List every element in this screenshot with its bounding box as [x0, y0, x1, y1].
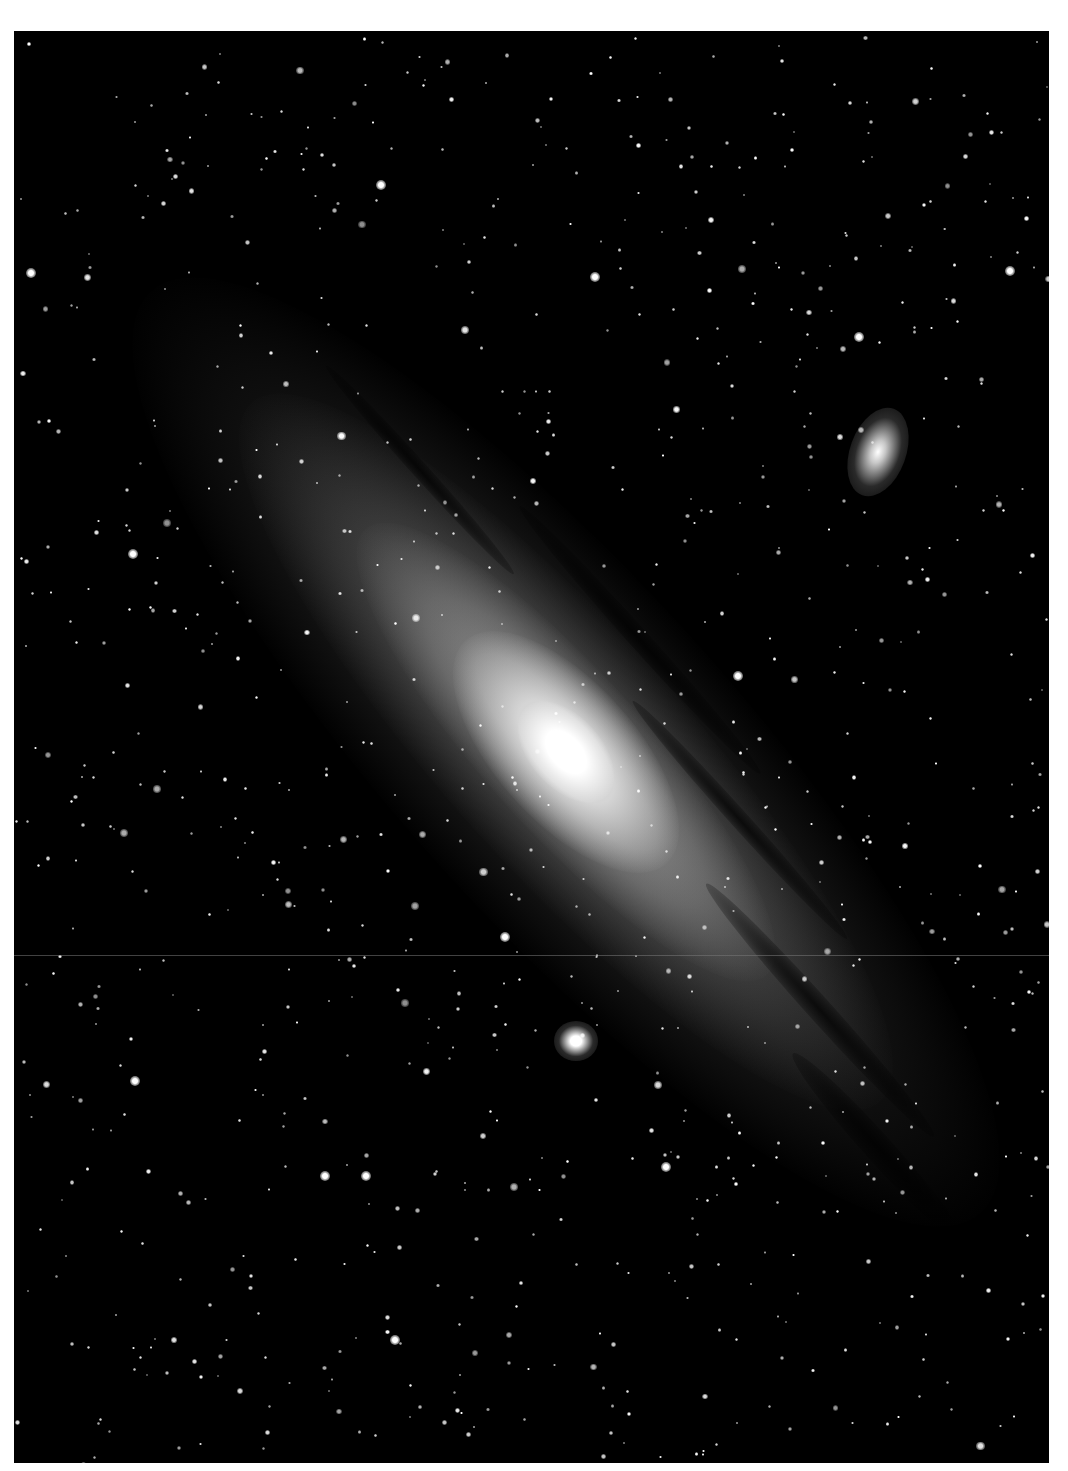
star — [467, 428, 469, 430]
star — [34, 747, 37, 750]
star — [188, 271, 190, 273]
star — [361, 924, 364, 927]
star — [192, 1359, 197, 1364]
star — [921, 921, 924, 924]
star — [185, 627, 187, 629]
star — [454, 513, 457, 516]
star — [683, 539, 687, 543]
star — [727, 1156, 730, 1159]
star — [137, 732, 140, 735]
star — [497, 198, 500, 201]
star — [376, 564, 378, 566]
star — [412, 678, 415, 681]
star — [979, 377, 984, 382]
star — [284, 1165, 287, 1168]
star — [422, 84, 425, 87]
star — [1002, 509, 1005, 512]
star — [732, 910, 734, 912]
star — [139, 968, 141, 970]
star — [358, 221, 366, 229]
star — [609, 56, 612, 59]
star — [519, 1281, 523, 1285]
star — [477, 457, 480, 460]
star — [780, 59, 784, 63]
star — [1016, 251, 1019, 254]
star — [535, 118, 540, 123]
star — [739, 751, 742, 754]
star — [590, 1364, 597, 1371]
star — [20, 371, 25, 376]
star — [464, 1182, 466, 1184]
star — [908, 249, 911, 252]
star — [922, 1358, 924, 1360]
star — [86, 1167, 89, 1170]
star — [372, 121, 375, 124]
star — [990, 256, 992, 258]
star — [802, 976, 807, 981]
star — [759, 341, 761, 343]
star — [836, 1210, 839, 1213]
star — [346, 1054, 349, 1057]
star — [162, 959, 165, 962]
star — [601, 1454, 605, 1458]
bright-star — [26, 268, 36, 278]
star — [754, 156, 757, 159]
star — [956, 957, 960, 961]
dust-lane — [320, 361, 519, 580]
star — [762, 465, 764, 467]
star — [742, 773, 745, 776]
star — [685, 227, 687, 229]
star — [860, 1081, 865, 1086]
star — [690, 498, 692, 500]
star — [109, 825, 112, 828]
star — [1020, 1152, 1023, 1155]
star — [144, 889, 148, 893]
star — [241, 386, 244, 389]
star — [507, 1361, 511, 1365]
star — [441, 614, 444, 617]
star — [822, 1210, 826, 1214]
star — [1003, 930, 1008, 935]
star — [327, 323, 330, 326]
star — [328, 1000, 330, 1002]
star — [736, 1422, 739, 1425]
star — [506, 1332, 512, 1338]
star — [55, 1275, 58, 1278]
star — [154, 1338, 156, 1340]
star — [177, 1446, 181, 1450]
star — [461, 326, 469, 334]
star — [982, 509, 985, 512]
star — [627, 1412, 631, 1416]
star — [75, 641, 78, 644]
star — [283, 381, 288, 386]
star — [872, 1177, 876, 1181]
star — [986, 1288, 991, 1293]
star — [913, 326, 916, 329]
star — [665, 850, 668, 853]
star — [929, 98, 932, 101]
star — [479, 868, 487, 876]
star — [196, 613, 199, 616]
star — [304, 630, 310, 636]
star — [29, 1094, 32, 1097]
star — [554, 712, 557, 715]
star — [866, 1259, 870, 1263]
star — [200, 770, 203, 773]
star — [837, 835, 842, 840]
star — [31, 592, 34, 595]
star — [727, 1113, 732, 1118]
star — [535, 313, 538, 316]
star — [731, 416, 734, 419]
star — [739, 502, 741, 504]
star — [360, 589, 364, 593]
star — [750, 1283, 752, 1285]
star — [816, 347, 818, 349]
star — [909, 1165, 914, 1170]
star — [795, 365, 798, 368]
star — [697, 251, 702, 256]
star — [806, 310, 811, 315]
star — [448, 1057, 452, 1061]
star — [730, 384, 734, 388]
star — [807, 444, 812, 449]
star — [199, 1443, 201, 1445]
